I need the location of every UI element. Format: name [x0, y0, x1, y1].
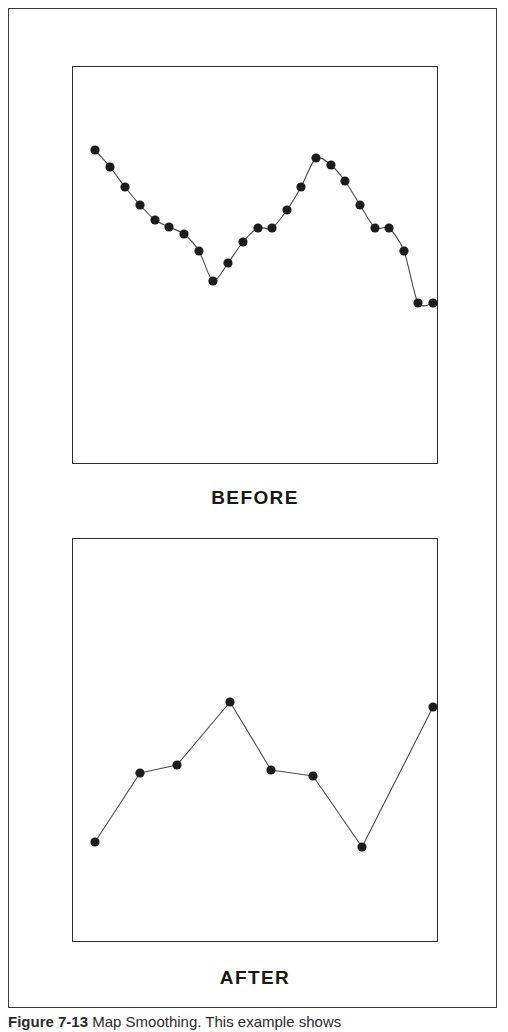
data-point: [120, 182, 129, 191]
data-point: [357, 842, 366, 851]
data-point: [194, 246, 203, 255]
data-point: [267, 223, 276, 232]
data-point: [311, 153, 320, 162]
data-point: [428, 298, 437, 307]
data-point: [384, 223, 393, 232]
panel-label-before: BEFORE: [72, 487, 438, 509]
data-point: [135, 768, 144, 777]
data-point: [172, 760, 181, 769]
data-point: [296, 182, 305, 191]
data-point: [105, 162, 114, 171]
data-point: [428, 702, 437, 711]
data-point: [282, 205, 291, 214]
data-point: [225, 697, 234, 706]
data-point: [355, 200, 364, 209]
data-point: [253, 223, 262, 232]
panel-label-after: AFTER: [72, 967, 438, 989]
chart-before: [72, 66, 438, 464]
data-point: [326, 160, 335, 169]
chart-line: [95, 150, 433, 306]
figure-caption-text: Map Smoothing. This example shows: [88, 1013, 341, 1030]
data-point: [208, 276, 217, 285]
data-point: [340, 176, 349, 185]
chart-line: [95, 702, 433, 847]
chart-panel-after: [72, 538, 438, 942]
data-point: [164, 222, 173, 231]
data-point: [413, 298, 422, 307]
figure-caption-label: Figure 7-13: [8, 1013, 88, 1030]
data-point: [90, 145, 99, 154]
chart-after: [72, 538, 438, 942]
data-point: [90, 837, 99, 846]
data-point: [223, 258, 232, 267]
data-point: [399, 246, 408, 255]
data-point: [179, 229, 188, 238]
data-point: [370, 223, 379, 232]
data-point: [308, 771, 317, 780]
figure-frame: BEFORE AFTER: [8, 8, 497, 1008]
data-point: [150, 215, 159, 224]
figure-caption: Figure 7-13 Map Smoothing. This example …: [8, 1012, 497, 1032]
data-point: [266, 765, 275, 774]
chart-panel-before: [72, 66, 438, 464]
data-point: [238, 237, 247, 246]
data-point: [135, 200, 144, 209]
